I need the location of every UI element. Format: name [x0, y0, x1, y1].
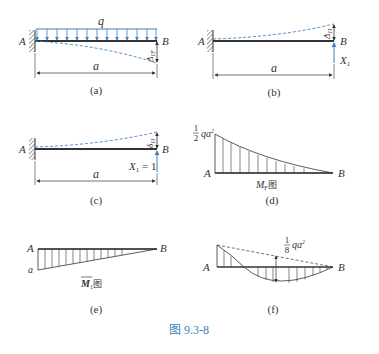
panel-f: 1 8 qa2 A B (f): [202, 235, 345, 316]
value-label: a: [28, 264, 33, 275]
deflected-shape: [35, 132, 157, 147]
point-b-label: B: [338, 261, 345, 273]
load-label: q: [98, 14, 104, 28]
moment-diagram-m1: [38, 249, 157, 270]
point-a-label: A: [202, 261, 210, 273]
panel-c: δ11 A B X1 = 1 a (c): [18, 132, 169, 207]
panel-e: A B a M1图 (e): [26, 242, 167, 316]
panel-b: Δ11 A B X1 a (b): [197, 24, 350, 99]
caption-a: (a): [90, 84, 103, 97]
value-denominator: 2: [194, 133, 199, 143]
length-label: a: [93, 167, 99, 181]
moment-diagram-final: [217, 245, 333, 281]
deflection-label: Δ11: [322, 28, 333, 40]
point-a-label: A: [26, 242, 34, 254]
fixed-support-icon: [207, 30, 213, 52]
point-b-label: B: [160, 242, 167, 254]
point-a-label: A: [18, 143, 26, 155]
deflected-shape: [213, 24, 334, 39]
force-label: X1 = 1: [128, 160, 156, 174]
fixed-support-icon: [29, 30, 35, 52]
diagram-label: M1图: [80, 278, 102, 290]
point-b-label: B: [162, 143, 169, 155]
deflection-label: δ11: [145, 138, 156, 148]
moment-diagram-mf: [215, 134, 333, 173]
panel-a: q A B Δ1F a (a): [18, 14, 169, 97]
diagram-label: MF图: [255, 179, 277, 191]
point-b-label: B: [340, 35, 347, 47]
fixed-support-icon: [29, 138, 35, 160]
value-numerator: 1: [194, 123, 199, 133]
closing-line: [217, 245, 333, 267]
caption-b: (b): [268, 86, 281, 99]
caption-d: (d): [266, 194, 279, 207]
caption-e: (e): [90, 303, 103, 316]
point-b-label: B: [338, 167, 345, 179]
distributed-load-icon: [36, 29, 157, 40]
force-label: X1: [339, 54, 350, 68]
value-numerator: 1: [285, 235, 290, 245]
figure-caption: 图 9.3-8: [169, 323, 209, 337]
value-denominator: 8: [285, 245, 290, 255]
length-label: a: [93, 59, 99, 73]
point-a-label: A: [18, 35, 26, 47]
panel-d: 1 2 qa2 A B MF图 (d): [193, 123, 345, 207]
length-label: a: [271, 61, 277, 75]
deflection-label: Δ1F: [145, 50, 156, 63]
caption-f: (f): [268, 303, 279, 316]
caption-c: (c): [90, 194, 103, 207]
point-a-label: A: [203, 167, 211, 179]
point-b-label: B: [162, 35, 169, 47]
value-expression: qa2: [201, 128, 214, 139]
value-expression: qa2: [292, 239, 305, 250]
point-a-label: A: [197, 35, 205, 47]
